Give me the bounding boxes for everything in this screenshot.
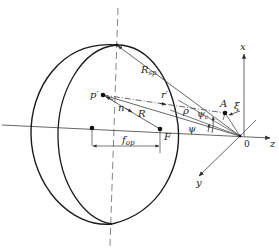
label-psi-c: ψc [197,108,209,120]
lens-center-point [90,126,95,131]
label-y-axis: y [195,177,202,188]
label-xi: ξ [234,100,240,111]
psi-angle-arc [208,124,209,132]
label-f-op: fop [121,134,135,147]
lens-back-surface [31,45,117,225]
label-a: A [219,98,227,109]
optical-axis-z [2,125,270,138]
origin-point [239,135,242,138]
label-rho: ρ [182,105,189,116]
label-psi: ψ [188,123,196,134]
f-point [158,127,163,132]
p-prime-point [101,93,106,98]
diagram-canvas: p′ n R r′ Rsp ρ ψc ψ A ξ x y z 0 F fop [0,0,279,248]
r-prime-arrow [160,104,166,105]
label-f: F [163,131,172,142]
lens-middle-surface [58,45,117,224]
r-sp-line [118,46,240,136]
label-r: R [137,108,146,119]
label-r-prime: r′ [161,89,169,100]
a-point [223,111,228,116]
label-x-axis: x [240,41,246,52]
r-arrow [126,109,132,113]
label-r-sp: Rsp [140,64,157,77]
lens-diagram: p′ n R r′ Rsp ρ ψc ψ A ξ x y z 0 F fop [0,0,279,248]
y-axis-extension [240,120,256,136]
lens-top-point [115,43,118,46]
label-z-axis: z [269,138,276,149]
label-p-prime: p′ [90,89,99,100]
xi-arrow [229,111,240,115]
label-n: n [118,102,124,113]
y-axis [199,136,240,176]
label-origin: 0 [244,139,250,149]
